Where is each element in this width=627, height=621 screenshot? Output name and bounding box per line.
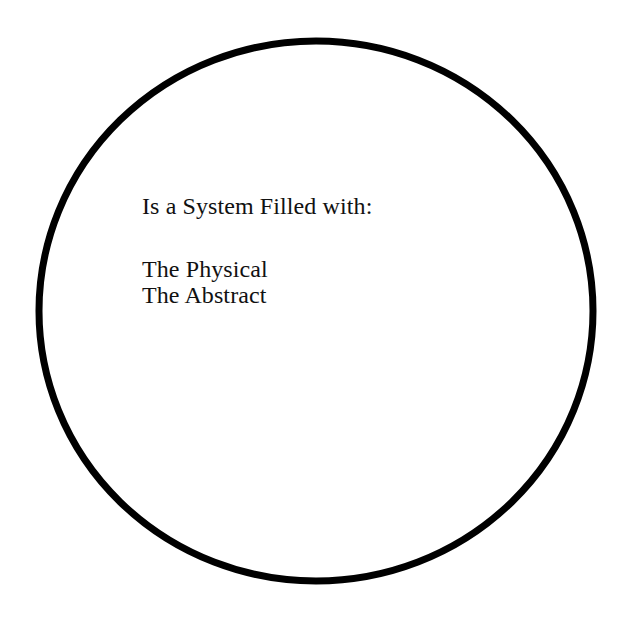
system-boundary-circle [39, 41, 593, 581]
item-the-physical: The Physical [142, 256, 442, 282]
heading-line: Is a System Filled with: [142, 193, 442, 219]
item-the-abstract: The Abstract [142, 282, 442, 308]
diagram-canvas: Is a System Filled with: The Physical Th… [0, 0, 627, 621]
circle-outline-svg [0, 0, 627, 621]
blank-spacer-line [142, 219, 442, 256]
circle-text-block: Is a System Filled with: The Physical Th… [142, 193, 442, 308]
